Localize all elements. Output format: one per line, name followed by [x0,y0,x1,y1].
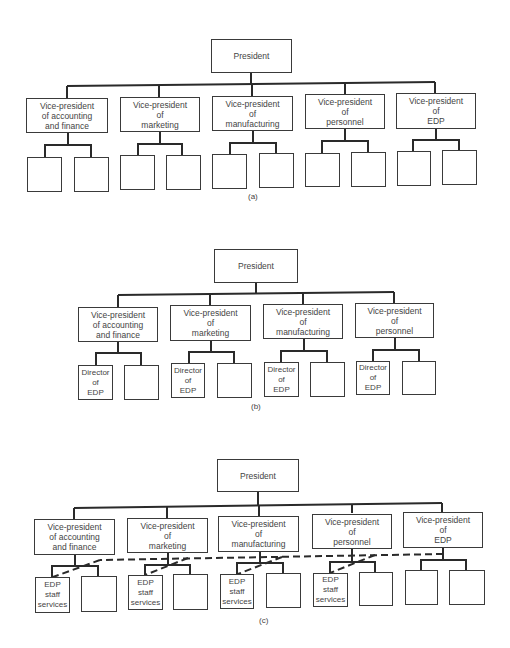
caption-c: (c) [259,616,268,625]
president-box-b: President [214,249,298,283]
sub-box-a [442,150,477,185]
sub-box-c [449,570,485,605]
vp-box-c-manufacturing: Vice-president of manufacturing [218,516,299,552]
director-of-edp-box: Director of EDP [264,362,299,397]
vp-box-b-manufacturing: Vice-president of manufacturing [263,304,343,339]
sub-box-a [27,157,62,192]
vp-box-c-marketing: Vice-president of marketing [127,518,208,553]
vp-box-b-marketing: Vice-president of marketing [170,305,251,341]
vp-box-c-accounting: Vice-president of accounting and finance [34,519,115,555]
vp-box-a-accounting: Vice-president of accounting and finance [26,98,108,133]
sub-box-c [81,576,117,612]
vp-box-a-marketing: Vice-president of marketing [120,97,200,132]
caption-b: (b) [251,402,261,411]
edp-staff-services-box: EDP staff services [313,573,348,607]
vp-box-a-edp: Vice-president of EDP [396,93,476,129]
edp-staff-services-box: EDP staff services [220,574,254,609]
caption-a: (a) [248,192,258,201]
vp-box-b-personnel: Vice-president of personnel [355,303,434,338]
director-of-edp-box: Director of EDP [78,365,113,400]
sub-box-c [359,572,393,606]
vp-box-b-accounting: Vice-president of accounting and finance [78,307,158,342]
sub-box-a [259,153,294,188]
sub-box-a [212,154,247,189]
sub-box-a [120,155,155,190]
vp-box-a-manufacturing: Vice-president of manufacturing [212,96,293,131]
director-of-edp-box: Director of EDP [171,363,205,398]
vp-box-c-edp: Vice-president of EDP [403,512,483,548]
sub-box-a [74,157,109,192]
president-box-a: President [211,39,292,73]
director-of-edp-box: Director of EDP [356,361,390,395]
sub-box-b [310,362,345,397]
sub-box-c [173,574,208,610]
sub-box-a [166,155,201,190]
dashed-reporting-line [100,554,443,560]
president-box-c: President [217,459,299,492]
sub-box-a [397,151,431,186]
vp-box-c-personnel: Vice-president of personnel [312,514,392,549]
sub-box-b [124,365,159,400]
sub-box-b [402,361,436,395]
edp-staff-services-box: EDP staff services [128,575,163,610]
sub-box-b [217,363,252,398]
sub-box-a [351,152,386,187]
sub-box-c [405,570,438,605]
edp-staff-services-box: EDP staff services [35,577,70,613]
sub-box-a [305,153,340,187]
sub-box-c [266,573,301,608]
vp-box-a-personnel: Vice-president of personnel [305,94,385,129]
